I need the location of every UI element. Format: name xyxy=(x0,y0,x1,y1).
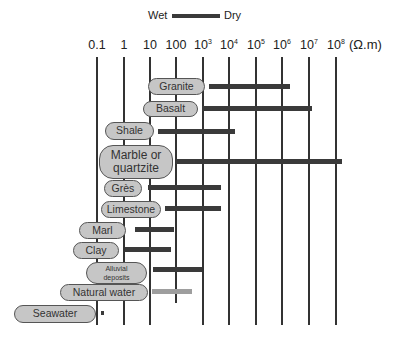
gridline-1e6 xyxy=(281,57,283,325)
bar-marble xyxy=(176,159,342,164)
label-natural-water: Natural water xyxy=(60,284,148,301)
bar-shale xyxy=(158,129,235,134)
label-marble-or-quartzite: Marble orquartzite xyxy=(99,145,173,179)
tick-label: 100 xyxy=(166,38,187,52)
tick-label: 103 xyxy=(194,38,212,52)
bar-natural-water xyxy=(152,289,192,294)
legend-dry-label: Dry xyxy=(224,9,241,21)
tick-label: 105 xyxy=(247,38,265,52)
bar-limestone xyxy=(165,206,221,211)
axis-unit: (Ω.m) xyxy=(349,37,382,52)
gridline-10 xyxy=(149,57,151,325)
bar-marl xyxy=(135,227,174,232)
tick-label: 104 xyxy=(220,38,238,52)
tick-label: 1 xyxy=(121,38,128,52)
tick-label: 10 xyxy=(143,38,157,52)
gridline-1e4 xyxy=(228,57,230,325)
tick-label: 0.1 xyxy=(88,38,105,52)
gridline-1e5 xyxy=(255,57,257,325)
label-basalt: Basalt xyxy=(143,101,198,117)
bar-seawater xyxy=(101,311,104,315)
bar-alluvial xyxy=(153,267,202,272)
label-limestone: Limestone xyxy=(101,201,161,218)
bar-basalt xyxy=(202,106,312,111)
bar-granite xyxy=(209,84,290,89)
tick-label: 107 xyxy=(300,38,318,52)
tick-label: 106 xyxy=(273,38,291,52)
bar-gres xyxy=(148,185,221,190)
legend-wet-label: Wet xyxy=(148,9,167,21)
label-granite: Granite xyxy=(148,78,205,95)
gridline-1e3 xyxy=(202,57,204,325)
label-alluvial-deposits: Alluvialdeposits xyxy=(86,262,147,284)
legend-swatch xyxy=(172,14,220,18)
gridline-1e8 xyxy=(335,57,337,325)
gridline-1e7 xyxy=(308,57,310,325)
label-marl: Marl xyxy=(79,222,126,239)
tick-label: 108 xyxy=(327,38,345,52)
legend: Wet Dry xyxy=(0,9,399,23)
label-shale: Shale xyxy=(105,122,154,140)
label-seawater: Seawater xyxy=(14,305,96,323)
label-clay: Clay xyxy=(73,242,119,259)
label-gres: Grès xyxy=(104,180,142,197)
bar-clay xyxy=(125,247,171,252)
